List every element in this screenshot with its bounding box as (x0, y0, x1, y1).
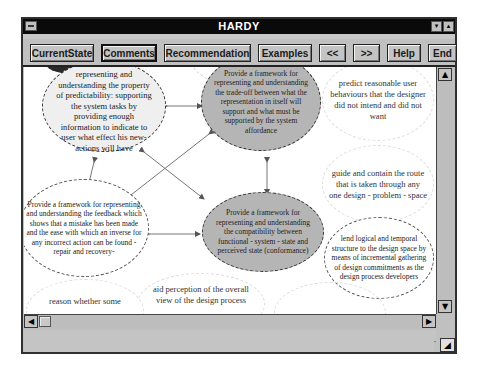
horizontal-scrollbar[interactable]: ◀ ▶ (24, 314, 436, 328)
recommendation-button[interactable]: Recommendation (164, 44, 251, 62)
horizontal-scroll-thumb[interactable] (39, 316, 51, 327)
minimize-icon: ▾ (435, 22, 439, 30)
minimize-button[interactable]: ▾ (431, 21, 442, 32)
maximize-icon: ▴ (447, 22, 451, 30)
next-button[interactable]: >> (353, 44, 380, 62)
diagram-canvas[interactable]: provide a framework for representing and… (24, 67, 436, 314)
hardy-window: HARDY ▾ ▴ CurrentState Comments Recommen… (21, 17, 457, 354)
toolbar: CurrentState Comments Recommendation Exa… (23, 39, 455, 67)
scroll-left-button[interactable]: ◀ (24, 315, 38, 328)
previous-button[interactable]: << (319, 44, 346, 62)
title-bar[interactable]: HARDY ▾ ▴ (23, 19, 455, 34)
resize-grip[interactable]: ◢ (440, 338, 455, 352)
arrow-right-icon: ▶ (426, 317, 432, 326)
window-title: HARDY (23, 20, 455, 32)
node-compatibility[interactable]: Provide a framework for representing and… (202, 192, 324, 272)
examples-button[interactable]: Examples (258, 44, 312, 62)
arrow-down-icon: ▼ (442, 302, 448, 311)
current-state-button[interactable]: CurrentState (30, 44, 94, 62)
node-predictability[interactable]: provide a framework for representing and… (42, 67, 166, 152)
vertical-scrollbar[interactable]: ▲ ▼ (436, 67, 453, 314)
scroll-up-button[interactable]: ▲ (438, 68, 452, 81)
node-feedback[interactable]: Provide a framework for representing and… (24, 179, 149, 277)
arrow-left-icon: ◀ (28, 317, 34, 326)
arrow-up-icon: ▲ (442, 70, 448, 79)
scroll-right-button[interactable]: ▶ (422, 315, 436, 328)
status-bar-2 (24, 341, 434, 352)
maximize-button[interactable]: ▴ (443, 21, 454, 32)
resize-icon: ◢ (444, 340, 451, 350)
end-button[interactable]: End (428, 44, 457, 62)
node-guide-route[interactable]: guide and contain the route that is take… (322, 145, 434, 223)
help-button[interactable]: Help (387, 44, 421, 62)
comments-button[interactable]: Comments (101, 44, 157, 62)
scroll-down-button[interactable]: ▼ (438, 300, 452, 313)
